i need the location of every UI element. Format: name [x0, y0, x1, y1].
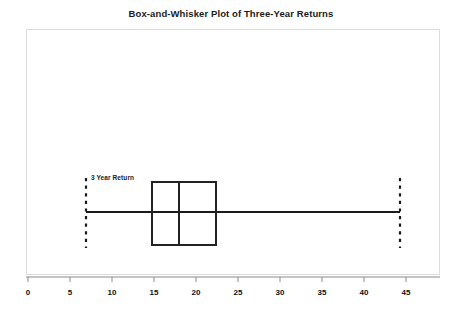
x-tick-label-35: 35: [310, 288, 334, 297]
x-axis-ticks: [28, 277, 406, 282]
interquartile-box: [152, 182, 216, 245]
box-whisker-chart: Box-and-Whisker Plot of Three-Year Retur…: [0, 0, 462, 311]
x-tick-label-30: 30: [268, 288, 292, 297]
x-tick-label-10: 10: [100, 288, 124, 297]
x-tick-label-40: 40: [352, 288, 376, 297]
box-plot-geometry: [0, 0, 462, 311]
x-tick-label-45: 45: [394, 288, 418, 297]
x-tick-label-15: 15: [142, 288, 166, 297]
x-tick-label-25: 25: [226, 288, 250, 297]
x-tick-label-0: 0: [16, 288, 40, 297]
x-tick-label-5: 5: [58, 288, 82, 297]
x-tick-label-20: 20: [184, 288, 208, 297]
series-label-3-year-return: 3 Year Return: [91, 174, 134, 181]
